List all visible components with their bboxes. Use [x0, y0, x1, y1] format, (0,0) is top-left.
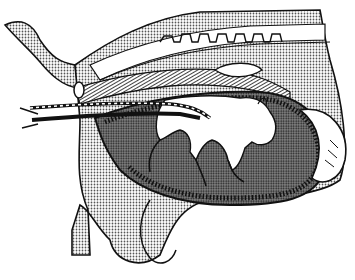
anus	[74, 82, 84, 98]
illustration-canvas	[0, 0, 355, 280]
anatomical-illustration	[0, 0, 355, 280]
tail	[5, 22, 78, 88]
